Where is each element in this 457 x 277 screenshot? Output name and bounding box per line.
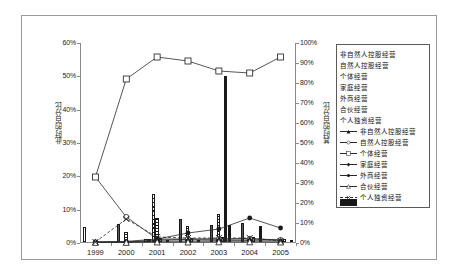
- legend-item-bar[interactable]: 家庭经营: [340, 82, 426, 93]
- line-marker: [347, 151, 351, 155]
- legend-marker-icon: [346, 173, 351, 178]
- legend-marker-icon: [346, 129, 351, 134]
- x-tick: [203, 243, 204, 246]
- line-series: [92, 239, 283, 246]
- line-marker: [347, 195, 351, 199]
- legend-marker-icon: [346, 195, 351, 200]
- legend-label: 个体经营: [340, 73, 368, 81]
- right-tick: [296, 43, 299, 44]
- line-marker: [347, 174, 350, 177]
- x-tick: [234, 243, 235, 246]
- line-marker: [347, 162, 351, 166]
- line-marker: [247, 70, 253, 76]
- legend-line-swatch: [340, 172, 357, 180]
- right-tick-label: 30%: [300, 179, 332, 186]
- x-tick: [142, 243, 143, 246]
- line-marker: [123, 76, 129, 82]
- legend-line-swatch: [340, 128, 357, 136]
- left-tick-label: 10%: [46, 206, 76, 213]
- legend-label: 合伙经营: [340, 106, 368, 114]
- right-tick: [296, 83, 299, 84]
- legend-label: 自然人控股经营: [360, 139, 409, 147]
- line-marker: [216, 68, 222, 74]
- legend-item-line[interactable]: 个体经营: [340, 148, 426, 159]
- left-tick-label: 0%: [46, 239, 76, 246]
- line-marker: [347, 129, 351, 133]
- legend-item-bar[interactable]: 外商经营: [340, 93, 426, 104]
- line-marker: [92, 174, 98, 180]
- right-tick-label: 40%: [300, 159, 332, 166]
- legend-item-line[interactable]: 外商经营: [340, 170, 426, 181]
- legend-label: 合伙经营: [360, 183, 388, 191]
- right-tick-label: 90%: [300, 59, 332, 66]
- chart-legend: 非自然人控股经营自然人控股经营个体经营家庭经营外商经营合伙经营个人独资经营非自然…: [336, 44, 430, 208]
- legend-line-swatch: [340, 139, 357, 147]
- legend-item-bar[interactable]: 个人独资经营: [340, 115, 426, 126]
- x-tick-label: 2005: [261, 248, 301, 257]
- legend-label: 非自然人控股经营: [360, 128, 416, 136]
- legend-label: 自然人控股经营: [340, 62, 389, 70]
- right-tick-label: 0%: [300, 239, 332, 246]
- right-tick: [296, 223, 299, 224]
- legend-label: 非自然人控股经营: [340, 51, 396, 59]
- legend-marker-icon: [346, 162, 351, 167]
- line-marker: [347, 140, 350, 143]
- legend-label: 家庭经营: [360, 161, 388, 169]
- right-tick: [296, 203, 299, 204]
- legend-item-bar[interactable]: 非自然人控股经营: [340, 49, 426, 60]
- plot-area: 60%50%40%30%20%10%0% 100%90%80%70%60%50%…: [80, 43, 296, 243]
- line-marker: [186, 231, 191, 236]
- right-tick: [296, 103, 299, 104]
- line-marker: [247, 216, 252, 221]
- left-tick-label: 50%: [46, 72, 76, 79]
- left-tick-label: 60%: [46, 39, 76, 46]
- legend-item-bar[interactable]: 个体经营: [340, 71, 426, 82]
- line-marker: [347, 184, 351, 188]
- right-tick-label: 20%: [300, 199, 332, 206]
- legend-label: 个人独资经营: [340, 117, 382, 125]
- legend-marker-icon: [346, 184, 351, 189]
- right-tick: [296, 63, 299, 64]
- legend-item-line[interactable]: 合伙经营: [340, 181, 426, 192]
- legend-item-bar[interactable]: 合伙经营: [340, 104, 426, 115]
- legend-label: 个体经营: [360, 150, 388, 158]
- legend-line-swatch: [340, 183, 357, 191]
- legend-line-swatch: [340, 161, 357, 169]
- chart-screenshot: 60%50%40%30%20%10%0% 100%90%80%70%60%50%…: [0, 0, 457, 277]
- legend-line-swatch: [340, 194, 357, 202]
- x-tick: [173, 243, 174, 246]
- left-axis-title: 此时的百分比: [54, 102, 64, 144]
- legend-item-line[interactable]: 非自然人控股经营: [340, 126, 426, 137]
- legend-item-line[interactable]: 家庭经营: [340, 159, 426, 170]
- x-tick: [265, 243, 266, 246]
- left-tick: [77, 243, 80, 244]
- line-marker: [278, 226, 283, 231]
- right-tick: [296, 183, 299, 184]
- left-tick-label: 20%: [46, 172, 76, 179]
- line-marker: [278, 54, 284, 60]
- legend-label: 家庭经营: [340, 84, 368, 92]
- legend-marker-icon: [346, 151, 351, 156]
- line-series: [92, 54, 283, 180]
- line-marker: [216, 227, 221, 232]
- line-marker: [185, 58, 191, 64]
- right-tick: [296, 123, 299, 124]
- legend-item-bar[interactable]: 自然人控股经营: [340, 60, 426, 71]
- x-tick: [111, 243, 112, 246]
- legend-item-line[interactable]: 自然人控股经营: [340, 137, 426, 148]
- legend-marker-icon: [346, 140, 351, 145]
- right-tick-label: 80%: [300, 79, 332, 86]
- legend-label: 外商经营: [360, 172, 388, 180]
- right-tick: [296, 163, 299, 164]
- right-tick-label: 10%: [300, 219, 332, 226]
- right-axis-title: 其时的百分比: [322, 102, 332, 144]
- right-tick: [296, 143, 299, 144]
- legend-label: 个人独资经营: [360, 194, 402, 202]
- legend-label: 外商经营: [340, 95, 368, 103]
- legend-item-line[interactable]: 个人独资经营: [340, 192, 426, 203]
- line-path: [95, 177, 280, 240]
- right-tick-label: 100%: [300, 39, 332, 46]
- line-layer: [80, 43, 296, 243]
- legend-line-swatch: [340, 150, 357, 158]
- x-tick: [296, 243, 297, 246]
